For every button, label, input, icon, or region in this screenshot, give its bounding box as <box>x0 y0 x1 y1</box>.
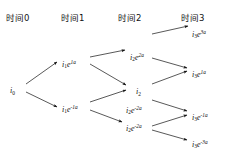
tree-node-n3uud: i3e1a <box>192 70 206 79</box>
tree-node-n2m: i2 <box>136 88 141 97</box>
tree-edge-n1u-to-n2m <box>90 64 126 85</box>
tree-node-n3uuu: i3e3a <box>192 30 206 39</box>
tree-node-n3ddd: i3e-3a <box>192 140 208 149</box>
time-column-header-0: 时间0 <box>6 14 29 23</box>
tree-edge-n0-to-n1u <box>26 62 57 84</box>
time-column-header-3: 时间3 <box>181 14 204 23</box>
tree-edge-n2md-to-n3udd <box>152 100 187 111</box>
tree-node-n1u: i1e1a <box>62 60 76 69</box>
node-superscript: 2a <box>139 52 144 58</box>
node-subscript: 2 <box>138 91 141 97</box>
tree-node-n1d: i1e-1a <box>62 105 78 114</box>
tree-edge-n2dd-to-n3udd <box>152 115 187 126</box>
tree-edge-n1u-to-n2uu <box>90 50 125 57</box>
tree-edge-n2dd-to-n3ddd <box>152 130 187 140</box>
tree-edge-n1d-to-n2dd <box>90 110 122 122</box>
node-superscript: 1a <box>201 69 206 75</box>
tree-edge-n1d-to-n2md <box>90 90 126 102</box>
tree-edge-n2uu-to-n3uuu <box>152 26 188 34</box>
node-superscript: 1a <box>71 59 76 65</box>
tree-edges <box>26 26 188 140</box>
tree-node-n2uu: i2e2a <box>130 53 144 62</box>
tree-edge-n2uu-to-n3uud <box>152 58 187 68</box>
tree-edge-n2m-to-n3uud <box>152 71 187 84</box>
tree-node-n3udd: i3e-1a <box>192 113 208 122</box>
binomial-interest-rate-tree: 时间0时间1时间2时间3 i0i1e1ai1e-1ai2e2ai2i2e-2ai… <box>0 0 228 157</box>
node-superscript: -2a <box>135 105 142 111</box>
node-superscript: -1a <box>71 104 78 110</box>
node-superscript: -1a <box>201 112 208 118</box>
node-superscript: -2a <box>135 123 142 129</box>
time-column-header-1: 时间1 <box>61 14 84 23</box>
time-column-header-2: 时间2 <box>118 14 141 23</box>
tree-node-n0: i0 <box>10 87 15 96</box>
node-subscript: 0 <box>12 90 15 96</box>
tree-node-n2md: i2e-2a <box>126 106 142 115</box>
tree-node-n2dd: i2e-2a <box>126 124 142 133</box>
node-superscript: -3a <box>201 139 208 145</box>
tree-edge-n0-to-n1d <box>26 92 57 107</box>
node-superscript: 3a <box>201 29 206 35</box>
